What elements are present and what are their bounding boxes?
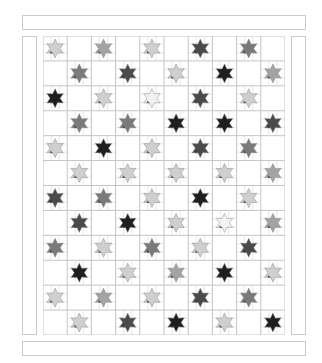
star-block <box>188 86 212 111</box>
star-block <box>164 61 188 86</box>
star-block <box>140 285 164 310</box>
star-block <box>212 61 236 86</box>
star-block <box>67 210 91 235</box>
star-icon <box>216 114 232 133</box>
star-block <box>67 260 91 285</box>
star-block <box>43 235 67 260</box>
star-block <box>164 161 188 186</box>
star-icon <box>265 64 281 83</box>
star-icon <box>47 39 63 58</box>
star-icon <box>192 188 208 207</box>
star-icon <box>47 288 63 307</box>
star-icon <box>192 238 208 257</box>
star-block <box>212 210 236 235</box>
star-icon <box>265 164 281 183</box>
star-icon <box>216 263 232 282</box>
star-icon <box>240 89 256 108</box>
star-icon <box>47 139 63 158</box>
star-block <box>67 61 91 86</box>
star-icon <box>168 313 184 332</box>
star-block <box>43 86 67 111</box>
star-block <box>67 161 91 186</box>
star-block <box>67 111 91 136</box>
star-block <box>237 36 261 61</box>
star-icon <box>168 263 184 282</box>
star-icon <box>95 288 111 307</box>
star-icon <box>71 263 87 282</box>
star-icon <box>192 89 208 108</box>
star-icon <box>95 139 111 158</box>
star-icon <box>47 188 63 207</box>
star-icon <box>144 139 160 158</box>
star-icon <box>192 39 208 58</box>
star-block <box>164 111 188 136</box>
star-block <box>116 61 140 86</box>
star-icon <box>168 213 184 232</box>
star-block <box>43 136 67 161</box>
star-block <box>91 186 115 211</box>
left-border-strip <box>22 36 37 335</box>
star-block <box>43 186 67 211</box>
star-icon <box>216 64 232 83</box>
star-icon <box>168 164 184 183</box>
star-block <box>116 260 140 285</box>
star-icon <box>71 64 87 83</box>
star-block <box>91 136 115 161</box>
star-block <box>116 210 140 235</box>
star-block <box>261 210 285 235</box>
star-block <box>261 111 285 136</box>
star-icon <box>265 213 281 232</box>
star-icon <box>168 64 184 83</box>
star-block <box>91 36 115 61</box>
star-block <box>212 111 236 136</box>
star-icon <box>119 114 135 133</box>
star-block <box>140 235 164 260</box>
star-block <box>43 36 67 61</box>
star-block <box>43 285 67 310</box>
star-block <box>164 210 188 235</box>
star-block <box>188 235 212 260</box>
star-icon <box>144 238 160 257</box>
star-icon <box>144 89 160 108</box>
quilt-center-grid <box>43 36 285 335</box>
star-block <box>164 310 188 335</box>
star-block <box>91 285 115 310</box>
star-block <box>164 260 188 285</box>
star-icon <box>216 164 232 183</box>
star-icon <box>265 263 281 282</box>
star-block <box>140 86 164 111</box>
star-icon <box>192 288 208 307</box>
star-block <box>67 310 91 335</box>
star-icon <box>240 39 256 58</box>
star-icon <box>144 188 160 207</box>
right-border-strip <box>291 36 306 335</box>
star-icon <box>216 313 232 332</box>
star-icon <box>240 288 256 307</box>
star-icon <box>119 64 135 83</box>
star-icon <box>47 238 63 257</box>
star-block <box>91 235 115 260</box>
star-block <box>188 285 212 310</box>
star-icon <box>144 288 160 307</box>
star-block <box>116 161 140 186</box>
star-icon <box>168 114 184 133</box>
star-icon <box>144 39 160 58</box>
star-icon <box>119 213 135 232</box>
star-block <box>212 310 236 335</box>
star-icon <box>192 139 208 158</box>
star-block <box>237 186 261 211</box>
star-block <box>212 260 236 285</box>
star-icon <box>95 188 111 207</box>
star-block <box>188 186 212 211</box>
star-icon <box>95 89 111 108</box>
star-icon <box>71 313 87 332</box>
star-icon <box>240 139 256 158</box>
top-border-strip <box>22 15 306 30</box>
star-icon <box>119 313 135 332</box>
star-block <box>212 161 236 186</box>
star-icon <box>240 188 256 207</box>
star-icon <box>265 313 281 332</box>
star-icon <box>71 164 87 183</box>
star-block <box>140 136 164 161</box>
star-block <box>237 285 261 310</box>
